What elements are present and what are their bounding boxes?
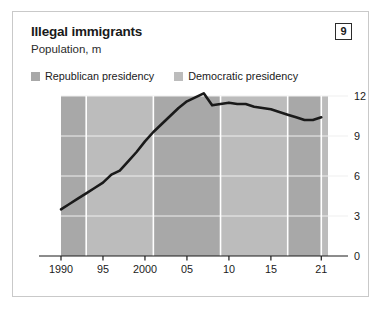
legend-item-democratic: Democratic presidency xyxy=(174,70,298,82)
status-badge: 9 xyxy=(335,23,352,40)
line-chart-svg: 036912 199095200005101521 xyxy=(13,88,368,293)
x-axis-label-05: 05 xyxy=(181,263,193,275)
x-axis-label-1990: 1990 xyxy=(49,263,73,275)
y-axis-label-0: 0 xyxy=(354,250,360,262)
chart-header: Illegal immigrants Population, m xyxy=(31,24,354,57)
legend-swatch-republican xyxy=(31,72,40,81)
y-axis-label-9: 9 xyxy=(354,130,360,142)
x-axis-label-15: 15 xyxy=(265,263,277,275)
legend-swatch-democratic xyxy=(174,72,183,81)
chart-card: Illegal immigrants Population, m 9 Repub… xyxy=(12,11,369,297)
y-axis-label-6: 6 xyxy=(354,170,360,182)
x-axis-labels: 199095200005101521 xyxy=(49,263,327,275)
legend-label-republican: Republican presidency xyxy=(45,70,154,82)
y-axis-labels: 036912 xyxy=(354,90,366,262)
chart-plot-area: 036912 199095200005101521 xyxy=(13,88,368,293)
legend-item-republican: Republican presidency xyxy=(31,70,154,82)
legend-label-democratic: Democratic presidency xyxy=(188,70,298,82)
y-axis-label-3: 3 xyxy=(354,210,360,222)
chart-subtitle: Population, m xyxy=(31,42,354,57)
x-axis-label-2000: 2000 xyxy=(133,263,157,275)
chart-legend: Republican presidency Democratic preside… xyxy=(31,70,298,82)
axis-group xyxy=(39,256,348,261)
x-axis-label-95: 95 xyxy=(97,263,109,275)
y-axis-label-12: 12 xyxy=(354,90,366,102)
x-axis-label-10: 10 xyxy=(223,263,235,275)
page-title: Illegal immigrants xyxy=(31,24,354,40)
x-axis-label-21: 21 xyxy=(315,263,327,275)
